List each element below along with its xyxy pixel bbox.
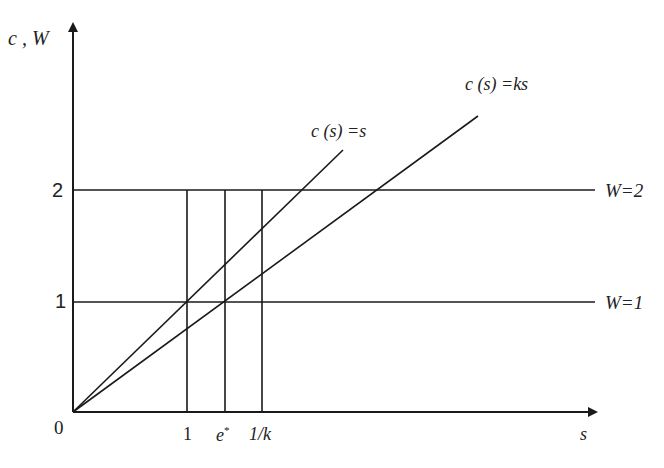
ytick-1: 1	[55, 291, 66, 311]
label-c-ks: c (s) =ks	[465, 75, 528, 93]
xtick-e-star: e*	[216, 425, 230, 444]
ytick-2: 2	[52, 180, 63, 200]
y-axis-label: c , W	[8, 28, 49, 48]
xtick-e-sup: *	[224, 424, 230, 436]
origin-label: 0	[54, 418, 64, 437]
x-axis-label: s	[580, 425, 587, 443]
diagram-canvas	[0, 0, 664, 468]
line-c-ks	[73, 116, 478, 412]
xtick-1-over-k: 1/k	[249, 425, 271, 443]
label-w2: W=2	[605, 181, 643, 200]
label-w1: W=1	[605, 293, 643, 312]
xtick-1: 1	[183, 425, 192, 443]
label-c-s: c (s) =s	[311, 122, 366, 140]
xtick-e: e	[216, 425, 224, 445]
